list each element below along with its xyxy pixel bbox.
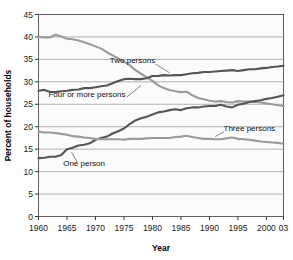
- x-axis-title: Year: [152, 243, 171, 253]
- ytick-label-25: 25: [24, 99, 34, 109]
- ytick-label-40: 40: [24, 32, 34, 42]
- xtick-label-1960: 1960: [29, 223, 48, 233]
- xtick-label-1975: 1975: [115, 223, 134, 233]
- xtick-label-1990: 1990: [200, 223, 219, 233]
- ytick-label-20: 20: [24, 122, 34, 132]
- series-label-three-persons: Three persons: [224, 124, 276, 133]
- ytick-label-15: 15: [24, 144, 34, 154]
- series-label-four-or-more-persons: Four or more persons: [48, 90, 125, 99]
- ytick-label-5: 5: [28, 189, 33, 199]
- ytick-label-30: 30: [24, 77, 34, 87]
- series-label-two-persons: Two persons: [110, 56, 155, 65]
- ytick-label-0: 0: [28, 212, 33, 222]
- y-axis-title: Percent of households: [3, 69, 13, 161]
- series-label-one-person: One person: [63, 159, 105, 168]
- xtick-label-2003: 03: [279, 223, 289, 233]
- household-size-line-chart: 0510152025303540451960196519701975198019…: [0, 0, 293, 260]
- ytick-label-45: 45: [24, 10, 34, 20]
- xtick-label-1985: 1985: [171, 223, 190, 233]
- ytick-label-10: 10: [24, 167, 34, 177]
- ytick-label-35: 35: [24, 54, 34, 64]
- xtick-label-2000: 2000: [257, 223, 276, 233]
- xtick-label-1965: 1965: [58, 223, 77, 233]
- xtick-label-1995: 1995: [228, 223, 247, 233]
- xtick-label-1970: 1970: [86, 223, 105, 233]
- chart-canvas: 0510152025303540451960196519701975198019…: [0, 0, 293, 260]
- plot-area: [39, 15, 284, 217]
- xtick-label-1980: 1980: [143, 223, 162, 233]
